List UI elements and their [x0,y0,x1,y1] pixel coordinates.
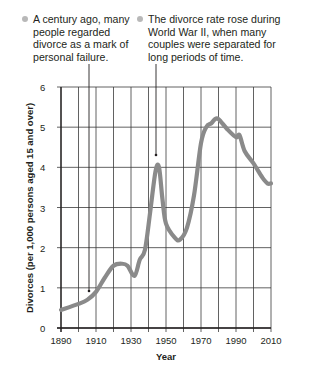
y-tick-label: 0 [40,323,45,334]
x-tick-label: 2010 [260,335,281,346]
y-tick-label: 6 [40,82,45,93]
leader-dot-2 [155,154,158,157]
x-tick-label: 1970 [190,335,211,346]
leader-dot-1 [88,290,91,293]
x-tick-label: 1910 [85,335,106,346]
x-tick-label: 1990 [225,335,246,346]
y-tick-label: 3 [40,202,45,213]
x-tick-label: 1930 [120,335,141,346]
x-tick-label: 1950 [155,335,176,346]
x-axis-label: Year [156,351,176,362]
y-tick-label: 5 [40,122,45,133]
y-tick-label: 4 [40,162,45,173]
y-axis-label: Divorces (per 1,000 persons aged 15 and … [24,103,35,313]
y-tick-label: 1 [40,282,45,293]
x-tick-label: 1890 [50,335,71,346]
y-tick-label: 2 [40,242,45,253]
